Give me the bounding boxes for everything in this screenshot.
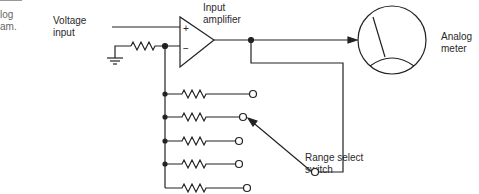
switch-wiper[interactable] <box>250 120 312 172</box>
circuit-diagram: + − <box>0 0 479 194</box>
input-resistor-icon <box>131 42 180 50</box>
minus-sign: − <box>183 43 189 54</box>
switch-contact[interactable] <box>236 161 243 168</box>
arrow-icon <box>348 37 357 43</box>
ground-icon <box>107 46 131 64</box>
switch-contact[interactable] <box>240 114 247 121</box>
switch-contact[interactable] <box>236 138 243 145</box>
switch-pivot <box>312 169 319 176</box>
switch-contact[interactable] <box>244 185 251 192</box>
plus-sign: + <box>183 23 189 34</box>
resistor-ladder <box>163 90 257 192</box>
switch-contact[interactable] <box>250 91 257 98</box>
analog-meter-icon <box>358 6 426 74</box>
